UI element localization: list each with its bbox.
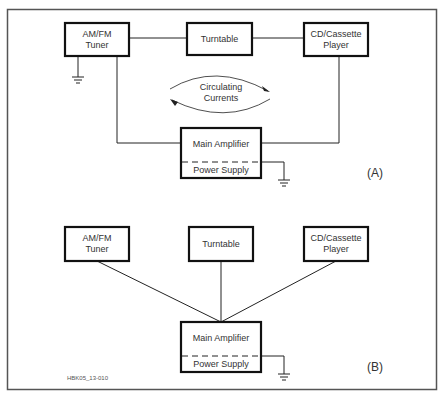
wire-cd-amplifier-b [221, 261, 336, 322]
figure-id: HBK05_13-010 [67, 375, 108, 381]
ground-symbol-icon [278, 180, 290, 186]
diagram-canvas: AM/FM Tuner Turntable CD/Cassette Player… [0, 0, 443, 395]
ground-symbol-icon [278, 374, 290, 380]
tuner-label: AM/FM Tuner [65, 23, 129, 56]
wire-tuner-amplifier-b [97, 261, 221, 322]
amplifier-label: Main Amplifier [181, 130, 261, 158]
panel-b-tag: (B) [367, 360, 383, 374]
wire-tuner-amplifier [117, 56, 181, 143]
power-supply-label-b: Power Supply [181, 357, 261, 371]
ground-symbol-icon [72, 77, 84, 83]
turntable-label: Turntable [187, 23, 252, 55]
panel-a-tag: (A) [367, 166, 383, 180]
arrowhead-right-icon [262, 86, 270, 92]
wire-cd-amplifier [261, 56, 339, 143]
wire-amp-ground [261, 162, 284, 180]
cd-player-label: CD/Cassette Player [304, 23, 368, 56]
turntable-label-b: Turntable [189, 227, 253, 261]
tuner-label-b: AM/FM Tuner [65, 227, 129, 261]
arrowhead-left-icon [170, 99, 178, 106]
cd-player-label-b: CD/Cassette Player [304, 227, 368, 261]
power-supply-label: Power Supply [181, 163, 261, 177]
amplifier-label-b: Main Amplifier [181, 324, 261, 352]
wire-amp-ground-b [261, 356, 284, 374]
circulating-currents-label: Circulating Currents [185, 81, 257, 105]
